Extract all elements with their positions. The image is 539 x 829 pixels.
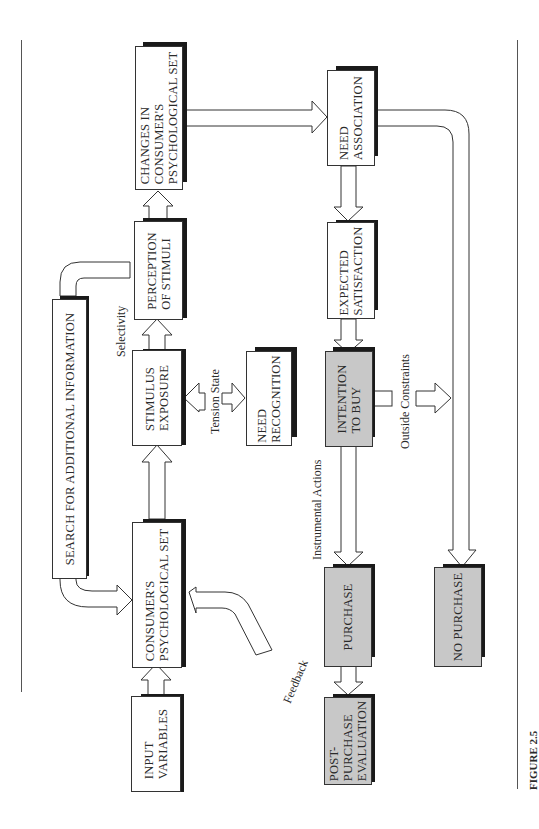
node-label: NEED ASSOCIATION	[337, 76, 365, 160]
node-label: POST- PURCHASE EVALUATION	[327, 701, 369, 781]
arrow-perception-to-search	[60, 262, 130, 296]
arrow-input-to-set	[141, 664, 171, 696]
arrow-intention-to-purchase	[334, 446, 363, 566]
arrow-feedback	[189, 587, 272, 655]
intention-stub	[372, 391, 392, 406]
node-consumers-psych-set: CONSUMER'S PSYCHOLOGICAL SET	[132, 522, 182, 668]
node-input-variables: INPUT VARIABLES	[131, 696, 181, 792]
arrow-association-to-satisfaction	[334, 166, 363, 221]
arrow-outside-constraints	[416, 383, 451, 413]
node-intention-to-buy: INTENTION TO BUY	[325, 351, 373, 447]
node-purchase: PURCHASE	[324, 567, 372, 667]
node-label: INTENTION TO BUY	[335, 364, 363, 433]
arrow-tension-right	[222, 383, 245, 412]
node-no-purchase: NO PURCHASE	[434, 567, 482, 667]
arrow-purchase-to-evaluation	[334, 666, 363, 695]
arrow-exposure-to-perception	[142, 319, 172, 350]
node-label: PURCHASE	[341, 584, 355, 651]
arrow-set-to-exposure	[142, 445, 172, 519]
node-need-recognition: NEED RECOGNITION	[246, 351, 292, 446]
node-perception-of-stimuli: PERCEPTION OF STIMULI	[134, 221, 183, 320]
arrow-perception-to-changes	[143, 191, 173, 219]
node-expected-satisfaction: EXPECTED SATISFACTION	[327, 222, 375, 319]
node-label: CHANGES IN CONSUMER'S PSYCHOLOGICAL SET	[138, 52, 180, 184]
arrow-association-to-no-purchase	[375, 110, 476, 567]
node-label: INPUT VARIABLES	[142, 709, 170, 779]
node-label: STIMULUS EXPOSURE	[143, 365, 171, 431]
node-label: CONSUMER'S PSYCHOLOGICAL SET	[143, 529, 171, 661]
node-label: NEED RECOGNITION	[255, 355, 283, 443]
arrow-changes-to-association	[183, 101, 327, 133]
node-search-for-info: SEARCH FOR ADDITIONAL INFORMATION	[52, 299, 87, 579]
arrow-tension-left	[184, 383, 205, 412]
node-post-purchase-evaluation: POST- PURCHASE EVALUATION	[324, 697, 372, 785]
figure-caption: FIGURE 2.5	[527, 731, 539, 790]
node-label: EXPECTED SATISFACTION	[337, 226, 365, 315]
label-outside-constraints: Outside Constraints	[398, 354, 413, 449]
node-label: SEARCH FOR ADDITIONAL INFORMATION	[63, 313, 77, 565]
node-stimulus-exposure: STIMULUS EXPOSURE	[132, 350, 182, 446]
label-tension-state: Tension State	[208, 369, 223, 434]
node-changes-in-psych-set: CHANGES IN CONSUMER'S PSYCHOLOGICAL SET	[135, 46, 183, 190]
node-need-association: NEED ASSOCIATION	[327, 70, 375, 166]
label-selectivity: Selectivity	[114, 306, 129, 357]
label-instrumental-actions: Instrumental Actions	[310, 460, 325, 560]
node-label: PERCEPTION OF STIMULI	[145, 232, 173, 310]
node-label: NO PURCHASE	[451, 573, 465, 662]
